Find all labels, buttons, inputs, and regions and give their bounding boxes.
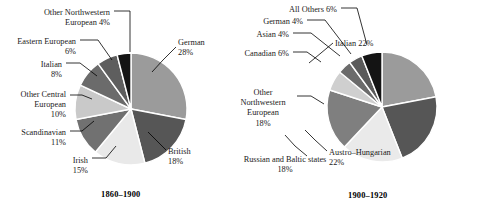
two-pie-chart-figure: German 28%British 18%Irish 15%Scandinavi…: [0, 0, 478, 218]
pie-label-austro-hungarian: Austro–Hungarian 22%: [329, 148, 397, 168]
leader-line-italian: [309, 43, 333, 63]
pie-label-scandinavian: Scandinavian 11%: [4, 128, 66, 148]
pie-label-german: German 4%: [251, 17, 303, 27]
chart-caption-1900-1920: 1900–1920: [348, 191, 388, 200]
pie-chart-panel-1900-1920: Italian 22%Austro–Hungarian 22%Russian a…: [239, 0, 478, 218]
pie-label-canadian: Canadian 6%: [233, 49, 289, 59]
leader-line-other-northwestern-european: [297, 96, 324, 104]
pie-label-russian-and-baltic-states: Russian and Baltic states 18%: [233, 155, 337, 175]
pie-label-other-northwestern-european: Other Northwestern European 18%: [231, 88, 295, 129]
pie-label-irish: Irish 15%: [50, 156, 88, 176]
leader-line-asian: [293, 33, 340, 56]
pie-label-italian: Italian 22%: [335, 39, 397, 49]
chart-caption-1860-1900: 1860–1900: [101, 190, 141, 199]
leader-line-eastern-european: [80, 40, 112, 60]
leader-line-russian-and-baltic-states: [285, 135, 307, 156]
pie-label-asian: Asian 4%: [245, 30, 289, 40]
pie-label-other-central-european: Other Central European 10%: [0, 90, 66, 121]
pie-label-italian: Italian 8%: [14, 60, 62, 80]
pie-label-all-others: All Others 6%: [279, 5, 337, 15]
leader-line-other-northwestern-european: [114, 11, 130, 52]
pie-label-british: British 18%: [168, 147, 224, 167]
leader-line-austro-hungarian: [305, 130, 327, 151]
pie-label-eastern-european: Eastern European 6%: [2, 37, 76, 57]
pie-slice-german: [131, 53, 187, 119]
pie-label-german: German 28%: [178, 38, 236, 58]
pie-chart-panel-1860-1900: German 28%British 18%Irish 15%Scandinavi…: [0, 0, 239, 218]
pie-label-other-northwestern-european: Other Northwestern European 4%: [22, 8, 110, 28]
